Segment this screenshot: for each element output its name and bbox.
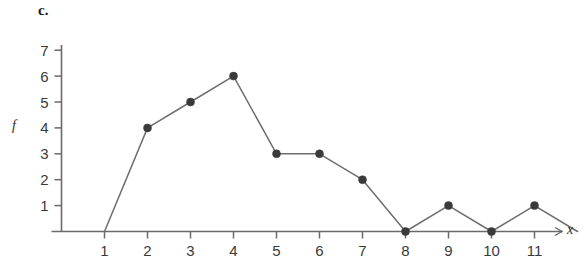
svg-text:2: 2 <box>40 171 48 188</box>
x-tick-marks <box>105 232 535 239</box>
y-tick-labels: 1234567 <box>40 42 48 214</box>
x-tick-labels: 1234567891011 <box>100 242 542 259</box>
svg-text:4: 4 <box>40 119 48 136</box>
svg-text:5: 5 <box>272 242 280 259</box>
svg-text:5: 5 <box>40 94 48 111</box>
svg-text:6: 6 <box>315 242 323 259</box>
svg-text:1: 1 <box>40 197 48 214</box>
svg-text:11: 11 <box>527 242 543 259</box>
y-axis-label: f <box>12 118 16 134</box>
svg-text:1: 1 <box>100 242 108 259</box>
svg-text:8: 8 <box>401 242 409 259</box>
line-chart-plot: 1234567 1234567891011 <box>0 0 588 263</box>
part-label: c. <box>38 2 49 19</box>
svg-text:9: 9 <box>444 242 452 259</box>
data-line <box>105 76 578 231</box>
svg-text:2: 2 <box>143 242 151 259</box>
svg-text:4: 4 <box>229 242 237 259</box>
svg-text:10: 10 <box>483 242 500 259</box>
data-markers <box>144 72 539 235</box>
svg-text:7: 7 <box>40 42 48 59</box>
y-tick-marks <box>55 50 62 205</box>
svg-text:6: 6 <box>40 68 48 85</box>
svg-text:7: 7 <box>358 242 366 259</box>
svg-text:3: 3 <box>40 145 48 162</box>
figure-panel: c. f x 1234567 1234567891011 <box>0 0 588 263</box>
x-axis-label: x <box>567 222 573 238</box>
svg-text:3: 3 <box>186 242 194 259</box>
